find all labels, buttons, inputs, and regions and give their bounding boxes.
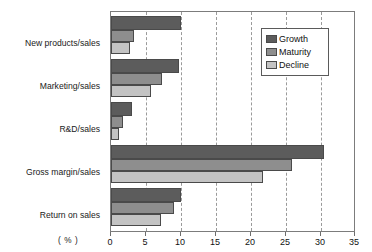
tick-mark	[354, 232, 355, 236]
tick-label: 25	[280, 237, 290, 247]
bar-group	[111, 188, 354, 228]
legend-item-maturity: Maturity	[266, 45, 324, 58]
bar-group	[111, 145, 354, 185]
bar-chart: New products/sales Marketing/sales R&D/s…	[0, 0, 372, 252]
tick-label: 5	[142, 237, 147, 247]
legend-label: Maturity	[279, 47, 311, 57]
tick-label: 15	[210, 237, 220, 247]
category-label: R&D/sales	[0, 124, 100, 134]
bar-maturity	[111, 159, 292, 171]
x-axis-unit-label: ( % )	[58, 236, 78, 245]
tick-label: 35	[349, 237, 359, 247]
legend-swatch-icon	[266, 35, 277, 43]
category-label: Marketing/sales	[0, 81, 100, 91]
tick-label: 30	[315, 237, 325, 247]
legend-item-decline: Decline	[266, 58, 324, 71]
legend: Growth Maturity Decline	[261, 28, 329, 76]
bar-decline	[111, 214, 161, 226]
bar-decline	[111, 42, 130, 54]
bar-growth	[111, 102, 132, 116]
bar-decline	[111, 128, 119, 140]
tick-mark	[250, 232, 251, 236]
legend-label: Growth	[279, 34, 308, 44]
tick-mark	[215, 232, 216, 236]
x-axis: 0 5 10 15 20 25 30 35	[110, 232, 355, 252]
legend-swatch-icon	[266, 61, 277, 69]
tick-mark	[145, 232, 146, 236]
category-axis-labels: New products/sales Marketing/sales R&D/s…	[0, 10, 104, 232]
category-label: New products/sales	[0, 38, 100, 48]
bar-growth	[111, 59, 179, 73]
tick-mark	[320, 232, 321, 236]
tick-label: 0	[107, 237, 112, 247]
tick-mark	[180, 232, 181, 236]
bar-growth	[111, 16, 181, 30]
bar-maturity	[111, 30, 134, 42]
legend-swatch-icon	[266, 48, 277, 56]
bar-maturity	[111, 73, 162, 85]
bar-decline	[111, 85, 151, 97]
tick-mark	[110, 232, 111, 236]
bar-group	[111, 102, 354, 142]
bar-growth	[111, 145, 324, 159]
legend-label: Decline	[279, 60, 309, 70]
bar-growth	[111, 188, 181, 202]
legend-item-growth: Growth	[266, 32, 324, 45]
tick-label: 20	[245, 237, 255, 247]
bar-maturity	[111, 116, 123, 128]
tick-label: 10	[175, 237, 185, 247]
tick-mark	[285, 232, 286, 236]
category-label: Gross margin/sales	[0, 167, 100, 177]
bar-decline	[111, 171, 263, 183]
category-label: Return on sales	[0, 210, 100, 220]
bar-maturity	[111, 202, 174, 214]
